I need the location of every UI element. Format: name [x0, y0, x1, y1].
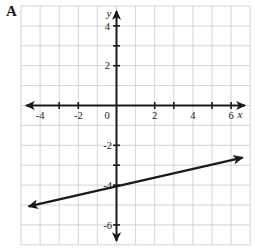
x-tick-label: 2 — [152, 110, 157, 121]
x-tick-label: -4 — [36, 110, 45, 121]
graph-figure: A — [0, 0, 255, 251]
x-tick-labels: -4 -2 0 2 4 6 — [36, 110, 234, 121]
panel-label: A — [6, 4, 17, 19]
x-tick-label: 0 — [104, 110, 109, 121]
coordinate-plane: -4 -2 0 2 4 6 4 2 -2 -4 -6 x y — [0, 0, 255, 251]
y-tick-label: -6 — [103, 220, 112, 231]
x-tick-label: -2 — [74, 110, 83, 121]
grid-lines — [21, 6, 250, 245]
y-tick-label: 4 — [105, 21, 111, 32]
x-tick-label: 6 — [228, 110, 233, 121]
y-tick-label: 2 — [105, 60, 110, 71]
y-axis-label: y — [106, 7, 112, 19]
y-tick-label: -2 — [103, 140, 112, 151]
x-tick-label: 4 — [190, 110, 196, 121]
x-axis-label: x — [237, 108, 243, 120]
